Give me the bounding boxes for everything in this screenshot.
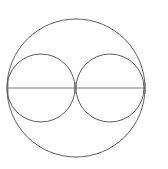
figure-canvas [0,0,168,169]
circle-diagram-svg [0,0,168,169]
diagram-background [0,0,168,169]
